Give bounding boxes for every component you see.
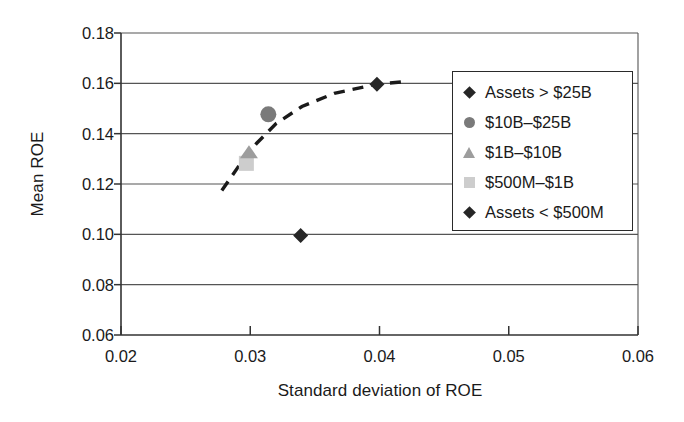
x-axis-title: Standard deviation of ROE: [121, 381, 639, 401]
y-tick-label: 0.12: [62, 176, 114, 192]
legend-label: $500M–$1B: [485, 173, 574, 191]
legend-label: $1B–$10B: [485, 143, 562, 161]
legend-label: Assets > $25B: [485, 83, 592, 101]
y-tick-label: 0.06: [62, 327, 114, 343]
x-axis-tick-labels: 0.020.030.040.050.06: [0, 348, 684, 374]
square-swatch: [464, 177, 475, 188]
legend-label: Assets < $500M: [485, 203, 604, 221]
trend-line: [222, 82, 403, 191]
legend-label: $10B–$25B: [485, 113, 571, 131]
legend-item: Assets > $25B: [460, 77, 632, 107]
y-tick-label: 0.18: [62, 25, 114, 41]
legend-triangle-icon: [460, 143, 478, 161]
legend-circle-icon: [460, 113, 478, 131]
x-tick-label: 0.02: [86, 348, 156, 364]
x-tick-label: 0.03: [215, 348, 285, 364]
legend-diamond-icon: [460, 83, 478, 101]
legend: Assets > $25B$10B–$25B$1B–$10B$500M–$1BA…: [452, 71, 633, 231]
x-tick-label: 0.04: [345, 348, 415, 364]
legend-item: $10B–$25B: [460, 107, 632, 137]
data-point-diamond: [369, 77, 384, 92]
y-tick-label: 0.16: [62, 75, 114, 91]
data-point-circle: [260, 106, 276, 122]
triangle-swatch: [463, 147, 475, 158]
data-point-triangle: [240, 145, 258, 158]
legend-square-icon: [460, 173, 478, 191]
y-tick-label: 0.14: [62, 126, 114, 142]
legend-diamond-icon: [460, 203, 478, 221]
circle-swatch: [464, 117, 475, 128]
legend-item: $500M–$1B: [460, 167, 632, 197]
roe-risk-return-chart: 0.060.080.100.120.140.160.18 0.020.030.0…: [0, 0, 684, 422]
x-tick-label: 0.05: [474, 348, 544, 364]
y-tick-label: 0.08: [62, 277, 114, 293]
diamond-swatch: [463, 206, 476, 219]
data-point-diamond: [293, 228, 308, 243]
legend-item: Assets < $500M: [460, 197, 632, 227]
diamond-swatch: [463, 86, 476, 99]
y-axis-title: Mean ROE: [28, 74, 48, 274]
x-tick-label: 0.06: [603, 348, 673, 364]
y-tick-label: 0.10: [62, 226, 114, 242]
legend-item: $1B–$10B: [460, 137, 632, 167]
